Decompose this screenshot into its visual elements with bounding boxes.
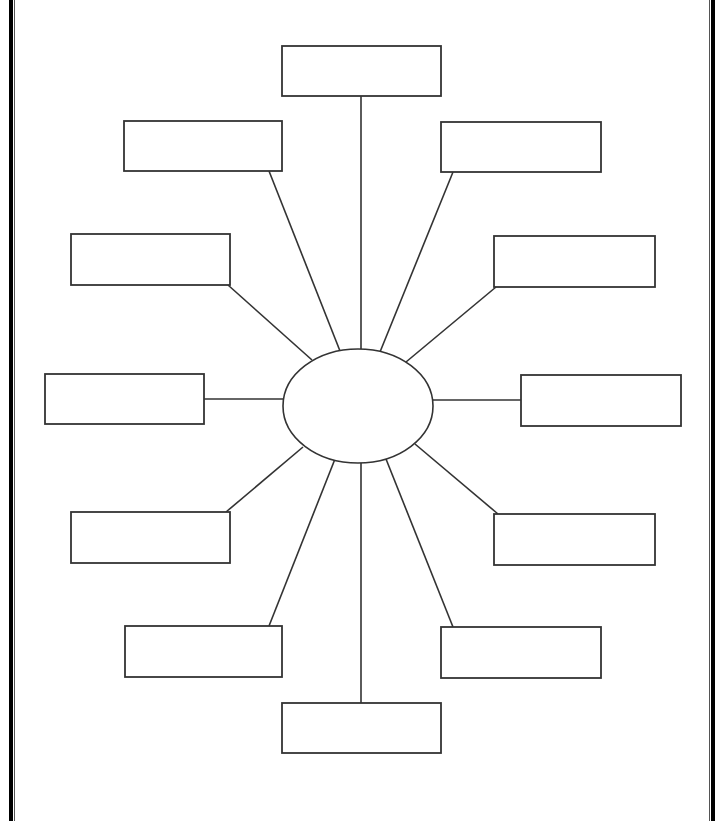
label-box-text-mid-lower-right[interactable]: [494, 514, 655, 565]
label-box-text-upper-left[interactable]: [124, 121, 282, 171]
label-box-text-mid-upper-left[interactable]: [71, 234, 230, 285]
connector-line-upper-left: [269, 171, 340, 351]
label-box-text-mid-lower-left[interactable]: [71, 512, 230, 563]
center-topic-label[interactable]: [283, 349, 433, 463]
label-box-text-bottom[interactable]: [282, 703, 441, 753]
label-box-text-top[interactable]: [282, 46, 441, 96]
connector-line-lower-left: [269, 459, 335, 626]
label-box-text-lower-right[interactable]: [441, 627, 601, 678]
connector-line-lower-right: [386, 459, 453, 627]
label-box-text-mid-upper-right[interactable]: [494, 236, 655, 287]
connector-line-upper-right: [380, 172, 453, 352]
label-box-text-lower-left[interactable]: [125, 626, 282, 677]
label-box-text-upper-right[interactable]: [441, 122, 601, 172]
label-box-text-right[interactable]: [521, 375, 681, 426]
label-box-text-left[interactable]: [45, 374, 204, 424]
